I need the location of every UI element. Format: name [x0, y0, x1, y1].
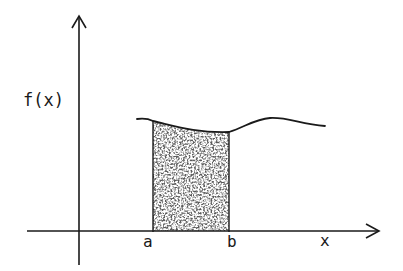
y-axis-label: f(x) [23, 90, 64, 110]
lower-bound-label: a [143, 232, 153, 251]
x-axis-label: x [320, 231, 330, 250]
upper-bound-label: b [227, 232, 237, 251]
integral-area-diagram: f(x) a b x [0, 0, 403, 271]
